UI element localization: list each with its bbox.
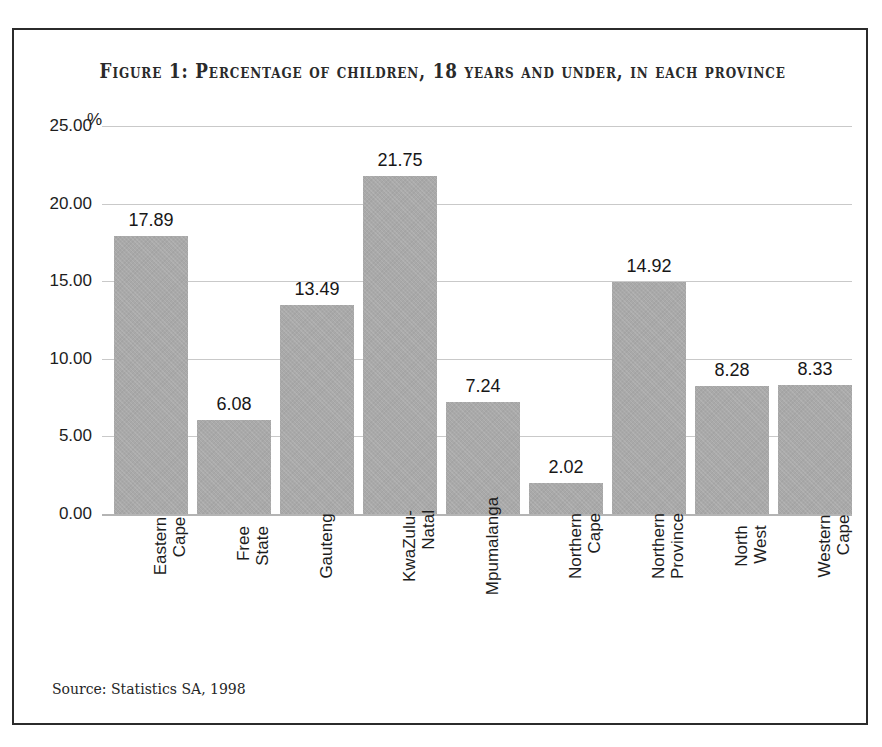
bar-value-label: 8.28 <box>695 360 769 381</box>
x-axis-tick-label: FreeState <box>234 526 273 566</box>
bar[interactable] <box>529 483 603 514</box>
source-caption: Source: Statistics SA, 1998 <box>52 681 246 697</box>
bar-slot: 2.02 <box>529 126 603 514</box>
x-axis-label-slot: WesternCape <box>778 546 852 696</box>
x-axis-tick-label: WesternCape <box>815 515 854 578</box>
bar-slot: 8.28 <box>695 126 769 514</box>
x-axis-category-labels: EasternCapeFreeStateGautengKwaZulu-Natal… <box>114 546 852 696</box>
x-axis-tick-label: Gauteng <box>317 513 336 578</box>
bar[interactable] <box>280 305 354 514</box>
y-axis-tick-label: 5.00 <box>59 426 92 446</box>
x-axis-label-slot: Gauteng <box>280 546 354 696</box>
axis-baseline: 0.00 <box>102 514 852 516</box>
page-title: Figure 1: Percentage of children, 18 yea… <box>100 58 785 83</box>
figure-frame: Figure 1: Percentage of children, 18 yea… <box>12 28 868 725</box>
y-axis-tick-label: 25.00 <box>49 116 92 136</box>
plot-area: 0.005.0010.0015.0020.0025.00 17.896.0813… <box>102 126 852 514</box>
bar-value-label: 8.33 <box>778 359 852 380</box>
bar-series: 17.896.0813.4921.757.242.0214.928.288.33 <box>114 126 852 514</box>
bar-slot: 6.08 <box>197 126 271 514</box>
bar-slot: 7.24 <box>446 126 520 514</box>
x-axis-label-slot: KwaZulu-Natal <box>363 546 437 696</box>
y-axis-tick-label: 15.00 <box>49 271 92 291</box>
bar-value-label: 13.49 <box>280 279 354 300</box>
bar-value-label: 14.92 <box>612 256 686 277</box>
x-axis-tick-label: EasternCape <box>151 517 190 576</box>
bar-value-label: 17.89 <box>114 210 188 231</box>
bar-slot: 21.75 <box>363 126 437 514</box>
x-axis-tick-label: NorthWest <box>732 525 771 567</box>
bar[interactable] <box>114 236 188 514</box>
y-axis-tick-label: 10.00 <box>49 349 92 369</box>
x-axis-tick-label: Mpumalanga <box>483 497 502 595</box>
bar[interactable] <box>695 386 769 515</box>
x-axis-tick-label: NorthernProvince <box>649 513 688 579</box>
x-axis-tick-label: NorthernCape <box>566 513 605 579</box>
bar-value-label: 2.02 <box>529 457 603 478</box>
bar-slot: 13.49 <box>280 126 354 514</box>
x-axis-label-slot: Mpumalanga <box>446 546 520 696</box>
y-axis-tick-label: 20.00 <box>49 194 92 214</box>
x-axis-tick-label: KwaZulu-Natal <box>400 510 439 582</box>
bar-value-label: 7.24 <box>446 376 520 397</box>
bar[interactable] <box>363 176 437 514</box>
y-axis-tick-label: 0.00 <box>59 504 92 524</box>
bar[interactable] <box>197 420 271 514</box>
x-axis-label-slot: FreeState <box>197 546 271 696</box>
x-axis-label-slot: EasternCape <box>114 546 188 696</box>
x-axis-label-slot: NorthernCape <box>529 546 603 696</box>
bar-value-label: 6.08 <box>197 394 271 415</box>
x-axis-label-slot: NorthernProvince <box>612 546 686 696</box>
bar[interactable] <box>612 282 686 514</box>
bar[interactable] <box>778 385 852 514</box>
bar-slot: 14.92 <box>612 126 686 514</box>
x-axis-label-slot: NorthWest <box>695 546 769 696</box>
bar-slot: 17.89 <box>114 126 188 514</box>
bar-value-label: 21.75 <box>363 150 437 171</box>
bar-slot: 8.33 <box>778 126 852 514</box>
